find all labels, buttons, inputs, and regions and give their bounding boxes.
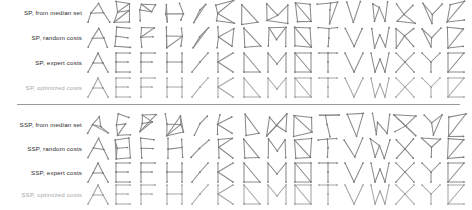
prototype-row: SP, from median set <box>0 0 472 25</box>
row-label: SP, expert costs <box>0 50 82 75</box>
letter-glyph-e <box>112 50 136 75</box>
prototype-row: SSP, optimized costs <box>0 182 472 207</box>
letter-glyph-m <box>265 182 289 207</box>
prototype-row: SSP, from median set <box>0 112 472 137</box>
letter-glyph-v <box>342 25 366 50</box>
letter-glyph-n <box>291 50 315 75</box>
letter-glyph-w <box>368 182 392 207</box>
letter-glyph-y <box>419 112 443 137</box>
letter-glyph-l <box>240 182 264 207</box>
letter-glyph-z <box>444 0 468 25</box>
letter-glyph-m <box>265 0 289 25</box>
letter-glyph-a <box>86 182 110 207</box>
letter-glyph-i <box>188 182 212 207</box>
letter-glyph-v <box>342 0 366 25</box>
letter-glyph-z <box>444 136 468 161</box>
letter-glyph-k <box>214 50 238 75</box>
letter-glyph-n <box>291 0 315 25</box>
letter-glyph-t <box>316 75 340 100</box>
glyph-strip <box>86 25 472 50</box>
letter-glyph-y <box>419 182 443 207</box>
letter-glyph-x <box>393 25 417 50</box>
letter-glyph-w <box>368 25 392 50</box>
letter-glyph-z <box>444 75 468 100</box>
letter-glyph-t <box>316 0 340 25</box>
letter-glyph-n <box>291 182 315 207</box>
letter-glyph-t <box>316 136 340 161</box>
letter-glyph-v <box>342 136 366 161</box>
letter-glyph-w <box>368 0 392 25</box>
row-label: SSP, optimized costs <box>0 182 82 207</box>
letter-glyph-h <box>163 136 187 161</box>
letter-glyph-e <box>112 136 136 161</box>
letter-glyph-a <box>86 75 110 100</box>
letter-glyph-h <box>163 112 187 137</box>
letter-glyph-y <box>419 25 443 50</box>
letter-glyph-e <box>112 75 136 100</box>
letter-glyph-m <box>265 50 289 75</box>
letter-glyph-e <box>112 112 136 137</box>
letter-glyph-y <box>419 75 443 100</box>
prototype-row: SP, random costs <box>0 25 472 50</box>
letter-glyph-v <box>342 75 366 100</box>
letter-glyph-y <box>419 50 443 75</box>
letter-glyph-f <box>137 75 161 100</box>
letter-glyph-l <box>240 75 264 100</box>
letter-glyph-i <box>188 25 212 50</box>
letter-glyph-f <box>137 136 161 161</box>
letter-glyph-w <box>368 112 392 137</box>
letter-glyph-v <box>342 112 366 137</box>
letter-glyph-n <box>291 25 315 50</box>
row-label: SP, random costs <box>0 25 82 50</box>
glyph-strip <box>86 0 472 25</box>
letter-glyph-a <box>86 50 110 75</box>
letter-glyph-y <box>419 0 443 25</box>
letter-glyph-m <box>265 25 289 50</box>
letter-glyph-a <box>86 25 110 50</box>
letter-glyph-e <box>112 0 136 25</box>
section-divider <box>17 104 460 105</box>
letter-glyph-i <box>188 0 212 25</box>
row-label: SP, optimized costs <box>0 75 82 100</box>
glyph-strip <box>86 50 472 75</box>
prototype-row: SP, optimized costs <box>0 75 472 100</box>
letter-glyph-w <box>368 75 392 100</box>
letter-glyph-f <box>137 50 161 75</box>
glyph-strip <box>86 182 472 207</box>
letter-glyph-n <box>291 112 315 137</box>
letter-glyph-a <box>86 0 110 25</box>
letter-glyph-z <box>444 25 468 50</box>
glyph-strip <box>86 112 472 137</box>
letter-glyph-i <box>188 75 212 100</box>
letter-glyph-k <box>214 182 238 207</box>
letter-glyph-t <box>316 50 340 75</box>
letter-glyph-h <box>163 25 187 50</box>
letter-glyph-k <box>214 112 238 137</box>
letter-glyph-e <box>112 25 136 50</box>
row-label: SP, from median set <box>0 0 82 25</box>
letter-glyph-x <box>393 182 417 207</box>
row-label: SSP, random costs <box>0 136 82 161</box>
letter-glyph-v <box>342 182 366 207</box>
letter-glyph-t <box>316 112 340 137</box>
letter-glyph-l <box>240 112 264 137</box>
letter-glyph-l <box>240 136 264 161</box>
letter-glyph-y <box>419 136 443 161</box>
letter-glyph-h <box>163 50 187 75</box>
letter-glyph-n <box>291 75 315 100</box>
letter-glyph-z <box>444 112 468 137</box>
prototype-row: SP, expert costs <box>0 50 472 75</box>
prototype-row: SSP, random costs <box>0 136 472 161</box>
letter-glyph-x <box>393 0 417 25</box>
letter-glyph-l <box>240 0 264 25</box>
letter-glyph-k <box>214 0 238 25</box>
letter-glyph-z <box>444 182 468 207</box>
letter-glyph-v <box>342 50 366 75</box>
letter-glyph-x <box>393 136 417 161</box>
letter-glyph-t <box>316 182 340 207</box>
letter-glyph-f <box>137 182 161 207</box>
letter-glyph-i <box>188 136 212 161</box>
letter-glyph-f <box>137 112 161 137</box>
letter-glyph-f <box>137 25 161 50</box>
letter-glyph-n <box>291 136 315 161</box>
